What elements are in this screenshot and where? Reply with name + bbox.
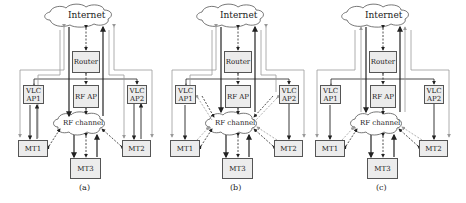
rf-ap-label: RF AP [372, 93, 394, 101]
vlc-ap2-box: VLCAP2 [424, 85, 444, 104]
mt3-label: MT3 [229, 165, 245, 173]
rf-channel-label: RF channel [63, 119, 103, 127]
mt2-label: MT2 [128, 145, 144, 153]
rf-ap-box: RF AP [73, 85, 99, 108]
vlc-ap1-label-line2: AP1 [178, 95, 192, 103]
mt1-box: MT1 [170, 140, 200, 157]
network-architecture-figure: Internet Router RF AP VLCAP1 VLCAP2 RF c… [0, 0, 466, 203]
panel-c: Internet Router RF AP VLCAP1 VLCAP2 RF c… [297, 0, 457, 203]
internet-label: Internet [68, 10, 105, 20]
panel-caption: (c) [376, 183, 387, 192]
rf-ap-label: RF AP [75, 93, 97, 101]
vlc-ap1-box: VLCAP1 [23, 85, 44, 104]
mt1-label: MT1 [25, 145, 41, 153]
vlc-ap1-box: VLCAP1 [320, 85, 341, 104]
mt1-label: MT1 [177, 145, 193, 153]
vlc-ap1-label-line1: VLC [323, 87, 338, 95]
panel-caption: (b) [230, 183, 241, 192]
vlc-ap1-label-line2: AP1 [323, 95, 337, 103]
router-label: Router [371, 58, 395, 66]
rf-channel-label: RF channel [215, 119, 255, 127]
vlc-ap1-label-line2: AP1 [26, 95, 40, 103]
mt3-label: MT3 [374, 165, 390, 173]
internet-label: Internet [220, 10, 257, 20]
vlc-ap2-label-line1: VLC [426, 87, 441, 95]
rf-ap-box: RF AP [225, 85, 251, 108]
vlc-ap2-box: VLCAP2 [279, 85, 299, 104]
internet-label: Internet [365, 10, 402, 20]
vlc-ap2-box: VLCAP2 [127, 85, 147, 104]
mt3-label: MT3 [77, 165, 93, 173]
router-box: Router [72, 51, 100, 73]
panel-b: Internet Router RF AP VLCAP1 VLCAP2 RF c… [152, 0, 312, 203]
mt1-box: MT1 [18, 140, 48, 157]
mt3-box: MT3 [70, 158, 101, 179]
router-label: Router [226, 58, 250, 66]
router-label: Router [74, 58, 98, 66]
vlc-ap2-label-line1: VLC [281, 87, 296, 95]
mt2-label: MT2 [425, 145, 441, 153]
vlc-ap2-label-line2: AP2 [130, 95, 144, 103]
panel-a: Internet Router RF AP VLCAP1 VLCAP2 RF c… [0, 0, 160, 203]
mt2-box: MT2 [122, 140, 151, 157]
mt1-box: MT1 [315, 140, 345, 157]
vlc-ap2-label-line1: VLC [129, 87, 144, 95]
vlc-ap2-label-line2: AP2 [427, 95, 441, 103]
rf-channel-label: RF channel [360, 119, 400, 127]
mt3-box: MT3 [367, 158, 398, 179]
panel-caption: (a) [79, 183, 90, 192]
vlc-ap1-box: VLCAP1 [175, 85, 196, 104]
mt2-label: MT2 [280, 145, 296, 153]
mt1-label: MT1 [322, 145, 338, 153]
vlc-ap2-label-line2: AP2 [282, 95, 296, 103]
router-box: Router [369, 51, 397, 73]
router-box: Router [224, 51, 252, 73]
rf-ap-box: RF AP [370, 85, 396, 108]
vlc-ap1-label-line1: VLC [26, 87, 41, 95]
rf-ap-label: RF AP [227, 93, 249, 101]
mt2-box: MT2 [419, 140, 448, 157]
mt3-box: MT3 [222, 158, 253, 179]
vlc-ap1-label-line1: VLC [178, 87, 193, 95]
